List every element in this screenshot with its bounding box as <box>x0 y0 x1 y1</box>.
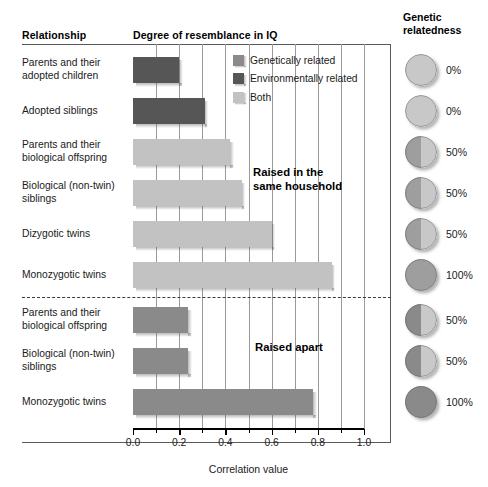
genetic-relatedness-item: 100% <box>405 259 473 291</box>
row-label: Dizygotic twins <box>22 228 130 241</box>
relatedness-pie-icon <box>405 259 437 291</box>
bar <box>133 307 188 333</box>
row-label: Parents and theiradopted children <box>22 57 130 82</box>
genetic-relatedness-item: 50% <box>405 304 467 336</box>
x-axis-minor-tick <box>295 429 296 433</box>
x-axis: 0.00.20.40.60.81.0 <box>133 429 364 455</box>
genetic-relatedness-item: 0% <box>405 54 461 86</box>
bar <box>133 98 205 124</box>
relatedness-percent-label: 50% <box>446 228 467 240</box>
x-axis-tick <box>272 429 273 435</box>
row-label: Biological (non-twin)siblings <box>22 180 130 205</box>
x-axis-title: Correlation value <box>133 463 364 475</box>
legend-label: Environmentally related <box>250 73 358 84</box>
genetic-relatedness-item: 50% <box>405 177 467 209</box>
relatedness-pie-icon <box>405 54 437 86</box>
relatedness-percent-label: 50% <box>446 314 467 326</box>
legend-item: Both <box>233 89 358 105</box>
row-label: Monozygotic twins <box>22 396 130 409</box>
x-axis-tick <box>225 429 226 435</box>
x-axis-tick-label: 0.6 <box>252 437 292 448</box>
x-axis-tick-label: 0.4 <box>205 437 245 448</box>
relatedness-pie-icon <box>405 218 437 250</box>
genetic-relatedness-item: 50% <box>405 345 467 377</box>
x-axis-tick-label: 0.0 <box>113 437 153 448</box>
chart-title: Degree of resemblance in IQ <box>133 29 278 41</box>
relatedness-percent-label: 100% <box>446 396 473 408</box>
bar <box>133 389 313 415</box>
genetic-relatedness-header: Geneticrelatedness <box>403 11 461 36</box>
legend-label: Genetically related <box>250 55 335 66</box>
x-axis-tick-label: 0.2 <box>159 437 199 448</box>
annotation-raised-together: Raised in thesame household <box>253 166 342 193</box>
x-axis-tick <box>179 429 180 435</box>
relatedness-percent-label: 50% <box>446 146 467 158</box>
relatedness-pie-icon <box>405 386 437 418</box>
x-axis-tick-label: 1.0 <box>344 437 384 448</box>
x-axis-minor-tick <box>156 429 157 433</box>
row-label: Adopted siblings <box>22 105 130 118</box>
legend-label: Both <box>250 92 271 103</box>
relatedness-percent-label: 0% <box>446 105 461 117</box>
relatedness-pie-icon <box>405 136 437 168</box>
relatedness-pie-icon <box>405 345 437 377</box>
legend: Genetically relatedEnvironmentally relat… <box>233 52 358 108</box>
x-axis-tick <box>133 429 134 435</box>
x-axis-tick-label: 0.8 <box>298 437 338 448</box>
bar <box>133 348 188 374</box>
genetic-relatedness-item: 50% <box>405 136 467 168</box>
genetic-relatedness-item: 0% <box>405 95 461 127</box>
bar <box>133 262 332 288</box>
genetic-relatedness-item: 50% <box>405 218 467 250</box>
relatedness-percent-label: 0% <box>446 64 461 76</box>
legend-item: Environmentally related <box>233 71 358 87</box>
relatedness-pie-icon <box>405 95 437 127</box>
relatedness-percent-label: 50% <box>446 187 467 199</box>
legend-item: Genetically related <box>233 52 358 68</box>
bar <box>133 221 272 247</box>
bar <box>133 139 230 165</box>
x-axis-minor-tick <box>249 429 250 433</box>
x-axis-tick <box>364 429 365 435</box>
gridline <box>364 44 365 429</box>
row-label: Monozygotic twins <box>22 269 130 282</box>
row-label: Biological (non-twin)siblings <box>22 348 130 373</box>
bar <box>133 180 242 206</box>
bar <box>133 57 179 83</box>
x-axis-minor-tick <box>202 429 203 433</box>
row-label: Parents and theirbiological offspring <box>22 139 130 164</box>
legend-swatch-icon <box>233 92 244 103</box>
row-label: Parents and theirbiological offspring <box>22 307 130 332</box>
group-divider <box>22 297 391 298</box>
relationship-column-header: Relationship <box>22 29 86 41</box>
relatedness-percent-label: 50% <box>446 355 467 367</box>
genetic-relatedness-item: 100% <box>405 386 473 418</box>
relatedness-pie-icon <box>405 177 437 209</box>
x-axis-tick <box>318 429 319 435</box>
relatedness-percent-label: 100% <box>446 269 473 281</box>
legend-swatch-icon <box>233 55 244 66</box>
x-axis-minor-tick <box>341 429 342 433</box>
legend-swatch-icon <box>233 73 244 84</box>
relatedness-pie-icon <box>405 304 437 336</box>
annotation-raised-apart: Raised apart <box>255 341 323 355</box>
